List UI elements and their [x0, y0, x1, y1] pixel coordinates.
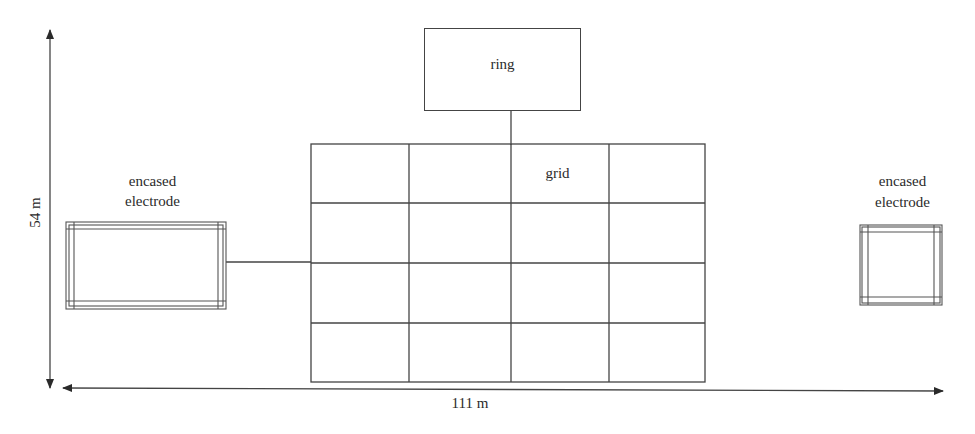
grid-mesh: [311, 144, 705, 382]
width-dimension-label: 111 m: [440, 395, 500, 412]
ring-label: ring: [424, 56, 581, 73]
right-electrode-label-line1: encased: [850, 173, 955, 190]
height-dimension-label: 54 m: [27, 193, 44, 233]
right-electrode-label-line2: electrode: [850, 194, 955, 211]
width-dimension-arrow: [63, 388, 943, 391]
left-electrode-label-line2: electrode: [100, 193, 205, 210]
right-electrode-shape: [860, 225, 942, 305]
grid-label: grid: [530, 165, 585, 182]
left-electrode-label-line1: encased: [100, 173, 205, 190]
left-electrode-shape: [66, 222, 226, 309]
